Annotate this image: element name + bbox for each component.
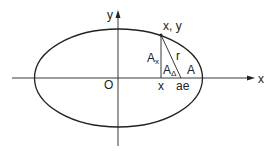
point-label: x, y bbox=[163, 19, 182, 33]
svg-text:A: A bbox=[163, 63, 171, 77]
x-axis-arrow-icon bbox=[247, 76, 255, 81]
y-axis-label: y bbox=[107, 8, 113, 22]
area-label: A bbox=[187, 63, 195, 77]
ellipse-diagram: y x O x, y x ae r A x A Δ A bbox=[0, 0, 271, 151]
origin-label: O bbox=[104, 78, 113, 92]
point-marker bbox=[160, 34, 163, 37]
foot-label: x bbox=[158, 79, 164, 93]
x-axis-label: x bbox=[258, 72, 264, 86]
x-axis bbox=[12, 76, 255, 81]
svg-text:Δ: Δ bbox=[171, 69, 177, 78]
radius-label: r bbox=[176, 49, 180, 63]
focus-label: ae bbox=[176, 79, 190, 93]
area-x-label: A x bbox=[147, 51, 159, 66]
svg-text:x: x bbox=[155, 57, 159, 66]
svg-text:A: A bbox=[147, 51, 155, 65]
y-axis-arrow-icon bbox=[116, 10, 121, 18]
